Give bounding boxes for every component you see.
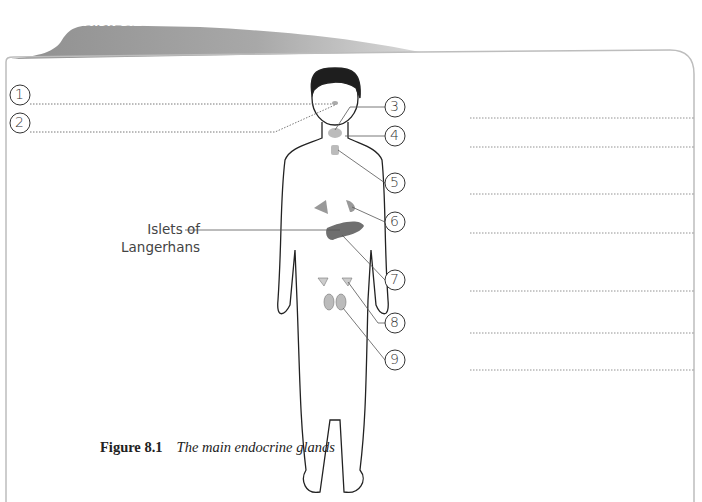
task-title: Task 8.1 — [80, 12, 142, 30]
label-number-9: 9 — [390, 351, 399, 367]
figure-number: Figure 8.1 — [100, 439, 163, 455]
label-number-5: 5 — [390, 174, 399, 190]
islets-annotation: Islets of Langerhans — [90, 220, 200, 256]
label-number-6: 6 — [390, 213, 399, 229]
label-number-1: 1 — [15, 86, 24, 102]
label-number-4: 4 — [390, 127, 399, 143]
answer-lines — [470, 118, 694, 370]
figure-title: The main endocrine glands — [177, 439, 335, 455]
label-number-7: 7 — [390, 271, 399, 287]
label-number-8: 8 — [390, 314, 399, 330]
label-number-2: 2 — [15, 114, 24, 130]
label-number-3: 3 — [390, 98, 399, 114]
figure-caption: Figure 8.1The main endocrine glands — [100, 439, 335, 456]
